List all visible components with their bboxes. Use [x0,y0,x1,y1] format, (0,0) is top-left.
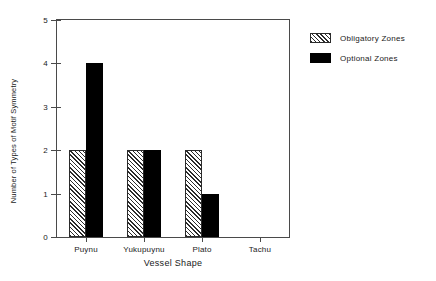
chart-bar [86,63,103,237]
x-axis-tick-label: Tachu [249,245,271,254]
x-axis-tick [260,237,261,242]
legend-item-optional-zones: Optional Zones [310,51,434,65]
y-axis-tick-inner [57,150,61,151]
legend-label-optional-zones: Optional Zones [340,54,398,63]
chart-bar [69,150,86,237]
y-axis-tick-inner [57,107,61,108]
y-axis-tick-label: 4 [43,59,48,68]
chart-bar [144,150,161,237]
y-axis-tick-inner [57,20,61,21]
y-axis-tick-inner [57,63,61,64]
x-axis-tick-label: Yukupuynu [123,245,164,254]
plot-area: 012345PuynuYukupuynuPlatoTachuVessel Sha… [57,20,289,237]
y-axis-title: Number of Types of Motif Symmetry [9,78,18,202]
chart-figure: 012345PuynuYukupuynuPlatoTachuVessel Sha… [0,0,436,281]
chart-bar [185,150,202,237]
y-axis-tick-label: 0 [43,233,48,242]
chart-bar [127,150,144,237]
x-axis-tick-label: Puynu [74,245,98,254]
legend-item-obligatory-zones: Obligatory Zones [310,31,434,45]
chart-bar [202,194,219,237]
y-axis-tick-label: 5 [43,16,48,25]
y-axis-tick-inner [57,237,61,238]
y-axis-tick-inner [57,194,61,195]
y-axis-tick-label: 2 [43,146,48,155]
x-axis-tick [86,237,87,242]
plot-frame: 012345PuynuYukupuynuPlatoTachuVessel Sha… [56,19,290,238]
legend-swatch-solid-icon [310,53,331,63]
x-axis-title: Vessel Shape [144,258,203,268]
x-axis-tick-label: Plato [192,245,211,254]
x-axis-tick [144,237,145,242]
y-axis-tick-label: 1 [43,189,48,198]
x-axis-tick [202,237,203,242]
legend-label-obligatory-zones: Obligatory Zones [340,34,405,43]
chart-legend: Obligatory Zones Optional Zones [310,31,434,71]
y-axis-tick-label: 3 [43,102,48,111]
legend-swatch-hatched-icon [310,33,331,43]
